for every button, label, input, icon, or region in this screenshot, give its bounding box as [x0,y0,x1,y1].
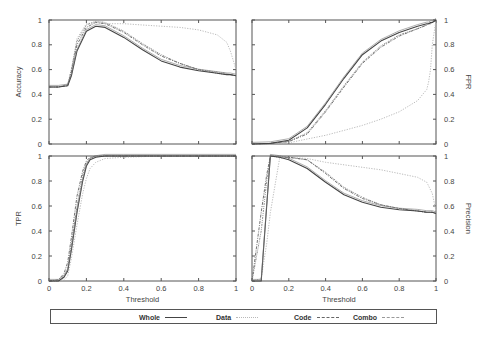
x-tick-label: 0.6 [357,284,367,293]
y-tick-label: 0.2 [444,252,454,261]
x-tick-label: 0.4 [119,284,129,293]
legend-label-whole: Whole [139,314,160,321]
series-line-combo [252,20,436,144]
series-line-whole [252,156,436,281]
y-tick-label: 0.4 [32,90,42,99]
legend-swatch-dotted [236,317,258,318]
legend-swatch-solid [165,317,187,318]
x-tick-label: 0.6 [156,284,166,293]
series-line-data [49,23,236,88]
y-tick-label: 1 [444,152,448,161]
plot-frame [252,20,436,144]
y-tick-label: 0.8 [444,40,454,49]
plot-frame [49,156,236,281]
y-tick-label: 0.8 [32,177,42,186]
series-line-whole [49,26,236,87]
fpr-panel: 00.20.40.60.81FPR [252,16,473,149]
legend-item-data: Data [216,312,258,322]
y-axis-label: Accuracy [14,66,23,97]
y-tick-label: 1 [38,16,42,25]
y-tick-label: 0.6 [32,202,42,211]
y-tick-label: 0.4 [444,90,454,99]
x-tick-label: 1 [434,284,438,293]
series-line-code [252,20,436,144]
series-line-data [49,156,236,281]
series-line-code [49,156,236,281]
legend-label-code: Code [294,314,312,321]
series-line-whole [49,156,236,281]
y-tick-label: 0.4 [32,227,42,236]
series-line-whole-shadow [252,18,436,142]
y-tick-label: 0.2 [444,115,454,124]
y-tick-label: 0.2 [32,115,42,124]
x-tick-label: 0.2 [284,284,294,293]
x-tick-label: 0 [47,284,51,293]
x-tick-label: 0.2 [81,284,91,293]
x-tick-label: 0 [250,284,254,293]
figure-canvas: 00.20.40.60.81Accuracy 00.20.40.60.81FPR… [0,0,486,341]
y-axis-label: FPR [464,75,473,91]
y-tick-label: 0.6 [444,202,454,211]
series-line-data [252,20,436,144]
y-tick-label: 0.6 [32,65,42,74]
legend-item-whole: Whole [139,312,187,322]
series-line-whole [252,20,436,144]
series-line-data [252,157,436,281]
y-tick-label: 0.4 [444,227,454,236]
x-axis-label: Threshold [322,295,355,304]
series-line-combo [49,156,236,281]
legend-swatch-dashdotdot [382,317,404,318]
y-axis-label: Precision [464,203,473,234]
y-tick-label: 0 [38,140,42,149]
series-line-code [252,156,436,281]
y-tick-label: 1 [444,16,448,25]
x-tick-label: 0.8 [394,284,404,293]
legend-swatch-dashdot [317,317,339,318]
y-tick-label: 0 [38,277,42,286]
y-axis-label: TPR [14,210,23,226]
y-tick-label: 0.6 [444,65,454,74]
x-tick-label: 0.8 [193,284,203,293]
plot-frame [252,156,436,281]
y-tick-label: 1 [38,152,42,161]
tpr-panel: 00.20.40.60.8100.20.40.60.81TPRThreshold [14,152,238,305]
precision-panel: 00.20.40.60.8100.20.40.60.81PrecisionThr… [250,152,473,305]
x-tick-label: 0.4 [320,284,330,293]
y-tick-label: 0.8 [32,40,42,49]
series-line-whole-shadow [252,154,436,279]
legend-label-data: Data [216,314,231,321]
accuracy-panel: 00.20.40.60.81Accuracy [14,16,236,149]
series-line-whole-shadow [49,25,236,86]
legend: Whole Data Code Combo [50,309,437,324]
series-line-combo [252,156,436,281]
legend-item-code: Code [294,312,339,322]
series-line-combo [49,21,236,87]
x-tick-label: 1 [234,284,238,293]
y-tick-label: 0.2 [32,252,42,261]
y-tick-label: 0.8 [444,177,454,186]
y-tick-label: 0 [444,140,448,149]
y-tick-label: 0 [444,277,448,286]
x-axis-label: Threshold [126,295,159,304]
legend-label-combo: Combo [353,314,377,321]
legend-item-combo: Combo [353,312,404,322]
series-line-whole-shadow [49,154,236,279]
